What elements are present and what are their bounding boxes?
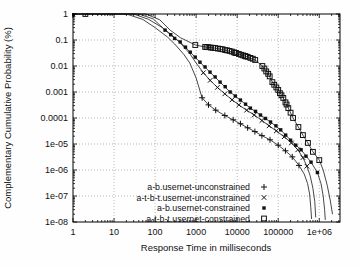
cross-marker-icon [252, 113, 257, 118]
y-tick-label: 1 [63, 9, 68, 19]
filled-square-marker-icon [289, 139, 292, 142]
filled-square-marker-icon [169, 33, 172, 36]
filled-square-marker-icon [304, 154, 307, 157]
filled-square-marker-icon [173, 37, 176, 40]
filled-square-marker-icon [269, 120, 272, 123]
plus-marker-icon [261, 184, 267, 190]
legend-item-a-t-b-t.usernet-constrained: a-t-b-t.usernet-constrained [146, 214, 266, 224]
cross-marker-icon [244, 108, 249, 113]
filled-square-marker-icon [213, 75, 216, 78]
filled-square-marker-icon [259, 113, 262, 116]
legend-label: a-t-b-t.usernet-constrained [146, 214, 250, 224]
filled-square-marker-icon [294, 143, 297, 146]
ccdf-chart-canvas: 1101001000100001000001e+0610.10.010.0010… [0, 0, 360, 266]
x-axis-title: Response Time in milliseconds [141, 242, 272, 253]
legend: a-b.usernet-unconstraineda-t-b-t.usernet… [137, 182, 267, 224]
filled-square-marker-icon [299, 148, 302, 151]
filled-square-marker-icon [264, 117, 267, 120]
plus-marker-icon [259, 133, 265, 139]
filled-square-marker-icon [249, 106, 252, 109]
x-tick-label: 100000 [263, 227, 293, 237]
cross-marker-icon [215, 85, 220, 90]
y-tick-label: 1e-05 [45, 139, 68, 149]
legend-item-a-t-b-t.usernet-unconstrained: a-t-b-t.usernet-unconstrained [137, 193, 267, 203]
y-tick-label: 0.01 [50, 61, 68, 71]
filled-square-marker-icon [254, 110, 257, 113]
filled-square-marker-icon [239, 98, 242, 101]
filled-square-marker-icon [244, 102, 247, 105]
x-tick-label: 1 [70, 227, 75, 237]
plus-marker-icon [252, 129, 258, 135]
cross-marker-icon [262, 195, 267, 200]
cross-marker-icon [260, 118, 265, 123]
filled-square-marker-icon [228, 90, 231, 93]
x-tick-label: 1e+06 [307, 227, 332, 237]
cross-marker-icon [230, 98, 235, 103]
filled-square-marker-icon [316, 171, 319, 174]
legend-label: a-t-b-t.usernet-unconstrained [137, 193, 251, 203]
filled-square-marker-icon [309, 160, 312, 163]
y-tick-label: 1e-07 [45, 191, 68, 201]
filled-square-marker-icon [234, 94, 237, 97]
series-markers-a-t-b-t.usernet-unconstrained [71, 12, 310, 169]
y-axis-title: Complementary Cumulative Probability (%) [2, 27, 13, 209]
plus-marker-icon [245, 125, 251, 131]
y-tick-label: 0.0001 [40, 113, 68, 123]
plus-marker-icon [222, 112, 228, 118]
filled-square-marker-icon [178, 40, 181, 43]
legend-label: a-b.usernet-unconstrained [147, 182, 250, 192]
cross-marker-icon [201, 70, 206, 75]
filled-square-marker-icon [189, 50, 192, 53]
filled-square-marker-icon [274, 124, 277, 127]
x-tick-label: 10000 [225, 227, 250, 237]
x-tick-label: 1000 [186, 227, 206, 237]
filled-square-marker-icon [208, 70, 211, 73]
filled-square-marker-icon [262, 206, 265, 209]
x-tick-label: 100 [148, 227, 163, 237]
cross-marker-icon [223, 92, 228, 97]
filled-square-marker-icon [163, 28, 166, 31]
filled-square-marker-icon [194, 55, 197, 58]
series-markers-a-b.usernet-unconstrained [70, 11, 302, 168]
y-tick-label: 1e-08 [45, 217, 68, 227]
plus-marker-icon [213, 107, 219, 113]
filled-square-marker-icon [279, 128, 282, 131]
filled-square-marker-icon [223, 85, 226, 88]
filled-square-marker-icon [284, 133, 287, 136]
filled-square-marker-icon [198, 61, 201, 64]
cross-marker-icon [305, 164, 310, 169]
cross-marker-icon [267, 124, 272, 129]
legend-label: a-b.usernet-constrained [157, 203, 250, 213]
plus-marker-icon [237, 121, 243, 127]
filled-square-marker-icon [203, 65, 206, 68]
response-time-ccdf-figure: 1101001000100001000001e+0610.10.010.0010… [0, 0, 360, 266]
y-tick-label: 0.1 [55, 35, 68, 45]
x-tick-label: 10 [109, 227, 119, 237]
y-tick-label: 1e-06 [45, 165, 68, 175]
filled-square-marker-icon [218, 80, 221, 83]
cross-marker-icon [274, 129, 279, 134]
legend-item-a-b.usernet-constrained: a-b.usernet-constrained [157, 203, 266, 213]
cross-marker-icon [208, 78, 213, 83]
series-markers-a-t-b-t.usernet-constrained [83, 12, 322, 163]
legend-item-a-b.usernet-unconstrained: a-b.usernet-unconstrained [147, 182, 267, 192]
y-tick-label: 0.001 [45, 87, 68, 97]
filled-square-marker-icon [184, 45, 187, 48]
plus-marker-icon [267, 137, 273, 143]
